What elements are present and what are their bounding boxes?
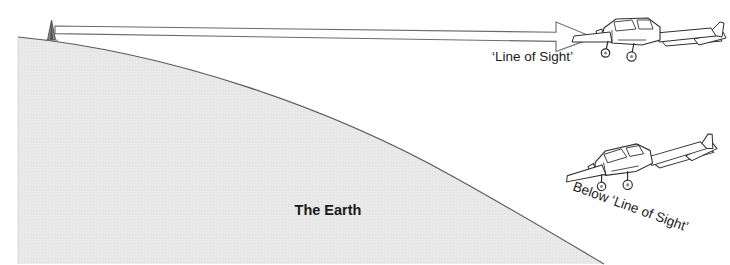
line-of-sight-diagram: The Earth ‘Line of Sight’ [0,0,730,265]
line-of-sight-label: ‘Line of Sight’ [492,49,573,64]
line-of-sight-arrow-shape [55,22,594,51]
diagram-canvas: The Earth ‘Line of Sight’ [0,0,730,265]
aircraft-within-line-of-sight [572,18,726,61]
line-of-sight-arrow [55,22,594,51]
earth-shape [18,37,604,264]
earth-label: The Earth [295,202,362,218]
aircraft-main-gear [627,43,636,61]
aircraft-nose-gear [601,41,609,57]
earth-body [18,37,604,264]
aircraft-side-window [637,20,653,29]
aircraft-cockpit-window [614,20,636,31]
aircraft-left-wing [565,165,606,182]
